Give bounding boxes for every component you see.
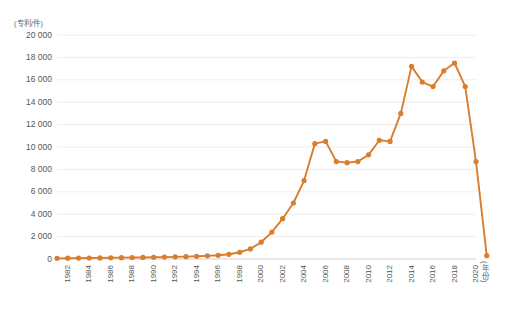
data-point-marker (248, 246, 253, 251)
x-axis-tick-label: 1982 (64, 265, 72, 283)
x-axis-tick-label: 2012 (386, 265, 394, 283)
data-point-marker (65, 256, 70, 261)
data-point-marker (205, 253, 210, 258)
x-axis-tick-label: 2008 (343, 265, 351, 283)
x-axis-tick-label: 2018 (451, 265, 459, 283)
x-axis-tick-label: 2004 (300, 265, 308, 283)
data-point-marker (441, 68, 446, 73)
x-axis-tick-label: 2010 (365, 265, 373, 283)
data-point-marker (463, 84, 468, 89)
series-line (57, 63, 487, 258)
data-point-marker (398, 111, 403, 116)
x-axis-tick-label: 1996 (214, 265, 222, 283)
x-axis-tick-label: 1984 (85, 265, 93, 283)
x-axis-tick-label: 2016 (429, 265, 437, 283)
x-axis-tick-label: 1988 (128, 265, 136, 283)
data-point-marker (259, 240, 264, 245)
data-point-marker (280, 216, 285, 221)
data-point-marker (430, 84, 435, 89)
x-axis-tick-label: 2014 (408, 265, 416, 283)
data-point-marker (97, 255, 102, 260)
data-point-marker (377, 138, 382, 143)
data-point-marker (302, 178, 307, 183)
data-point-marker (366, 152, 371, 157)
x-axis-tick-label: 1992 (171, 265, 179, 283)
x-axis-tick-label: 1986 (107, 265, 115, 283)
data-point-marker (162, 255, 167, 260)
data-point-marker (269, 230, 274, 235)
data-point-marker (140, 255, 145, 260)
data-point-marker (226, 252, 231, 257)
x-axis-tick-label: 1994 (193, 265, 201, 283)
data-point-marker (237, 250, 242, 255)
data-point-marker (183, 254, 188, 259)
x-axis-tick-label: 1998 (236, 265, 244, 283)
data-point-marker (173, 254, 178, 259)
data-point-marker (334, 159, 339, 164)
data-point-marker (355, 159, 360, 164)
x-axis-tick-labels: 1982198419861988199019921994199619982000… (0, 265, 509, 305)
data-point-marker (119, 255, 124, 260)
data-point-marker (151, 255, 156, 260)
data-point-marker (452, 60, 457, 65)
data-point-marker (473, 159, 478, 164)
x-axis-unit-label: (年份) (479, 261, 490, 283)
data-point-marker (312, 141, 317, 146)
data-point-marker (291, 200, 296, 205)
data-point-marker (484, 253, 489, 258)
data-point-marker (387, 139, 392, 144)
data-point-marker (76, 256, 81, 261)
patent-trend-line-chart: (专利/件) 02 0004 0006 0008 00010 00012 000… (0, 0, 509, 313)
data-point-marker (216, 253, 221, 258)
x-axis-tick-label: 2006 (322, 265, 330, 283)
data-point-marker (344, 160, 349, 165)
x-axis-tick-label: 2002 (279, 265, 287, 283)
series-markers (54, 60, 489, 261)
data-point-marker (420, 79, 425, 84)
data-point-marker (130, 255, 135, 260)
data-point-marker (409, 64, 414, 69)
data-point-marker (87, 255, 92, 260)
data-point-marker (108, 255, 113, 260)
x-axis-tick-label: 1990 (150, 265, 158, 283)
data-point-marker (54, 256, 59, 261)
data-point-marker (194, 254, 199, 259)
x-axis-tick-label: 2000 (257, 265, 265, 283)
data-point-marker (323, 139, 328, 144)
